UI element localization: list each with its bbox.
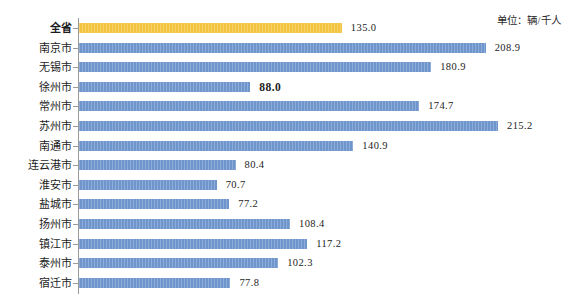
axis-tick [73, 48, 78, 49]
bar-chart: 单位：辆/千人 全省135.0南京市208.9无锡市180.9徐州市88.0常州… [0, 0, 573, 304]
category-label: 连云港市 [0, 155, 72, 175]
category-label: 盐城市 [0, 194, 72, 214]
category-label: 常州市 [0, 96, 72, 116]
chart-row: 泰州市102.3 [0, 253, 573, 273]
bar-value-label: 102.3 [287, 253, 313, 273]
axis-tick [73, 263, 78, 264]
bar-value-label: 215.2 [507, 116, 533, 136]
bar-value-label: 140.9 [362, 136, 388, 156]
axis-tick [73, 165, 78, 166]
chart-row: 苏州市215.2 [0, 116, 573, 136]
bar-value-label: 135.0 [351, 18, 377, 38]
category-label: 无锡市 [0, 57, 72, 77]
axis-tick [73, 87, 78, 88]
category-label: 宿迁市 [0, 273, 72, 293]
chart-row: 扬州市108.4 [0, 214, 573, 234]
axis-tick [73, 244, 78, 245]
axis-tick [73, 28, 78, 29]
bar-value-label: 180.9 [440, 57, 466, 77]
bar-value-label: 174.7 [428, 96, 454, 116]
bar-value-label: 77.2 [238, 194, 258, 214]
bar [79, 199, 229, 209]
chart-row: 无锡市180.9 [0, 57, 573, 77]
bar [79, 160, 236, 170]
category-label: 苏州市 [0, 116, 72, 136]
category-label: 淮安市 [0, 175, 72, 195]
bar [79, 219, 290, 229]
bar [79, 180, 217, 190]
category-label: 南通市 [0, 136, 72, 156]
bar-value-label: 108.4 [299, 214, 325, 234]
chart-row: 镇江市117.2 [0, 234, 573, 254]
category-label: 全省 [0, 18, 72, 38]
category-label: 泰州市 [0, 253, 72, 273]
axis-tick [73, 67, 78, 68]
bar [79, 62, 431, 72]
bar-value-label: 80.4 [245, 155, 265, 175]
chart-row: 连云港市80.4 [0, 155, 573, 175]
category-label: 镇江市 [0, 234, 72, 254]
axis-tick [73, 126, 78, 127]
bar-value-label: 88.0 [259, 77, 281, 97]
category-label: 徐州市 [0, 77, 72, 97]
chart-row: 盐城市77.2 [0, 194, 573, 214]
bar [79, 82, 250, 92]
chart-row: 宿迁市77.8 [0, 273, 573, 293]
chart-row: 徐州市88.0 [0, 77, 573, 97]
bar [79, 258, 278, 268]
bar [79, 141, 353, 151]
axis-tick [73, 204, 78, 205]
plot-area: 全省135.0南京市208.9无锡市180.9徐州市88.0常州市174.7苏州… [0, 0, 573, 304]
bar [79, 121, 498, 131]
bar [79, 43, 486, 53]
bar-value-label: 77.8 [239, 273, 259, 293]
bar [79, 23, 342, 33]
bar [79, 101, 419, 111]
chart-row: 常州市174.7 [0, 96, 573, 116]
chart-row: 南京市208.9 [0, 38, 573, 58]
bar-value-label: 208.9 [495, 38, 521, 58]
axis-tick [73, 283, 78, 284]
axis-tick [73, 146, 78, 147]
category-label: 南京市 [0, 38, 72, 58]
bar [79, 278, 230, 288]
bar-value-label: 117.2 [316, 234, 341, 254]
category-label: 扬州市 [0, 214, 72, 234]
axis-tick [73, 224, 78, 225]
axis-tick [73, 185, 78, 186]
chart-row: 全省135.0 [0, 18, 573, 38]
axis-tick [73, 106, 78, 107]
bar-value-label: 70.7 [226, 175, 246, 195]
bar [79, 239, 307, 249]
chart-row: 淮安市70.7 [0, 175, 573, 195]
chart-row: 南通市140.9 [0, 136, 573, 156]
